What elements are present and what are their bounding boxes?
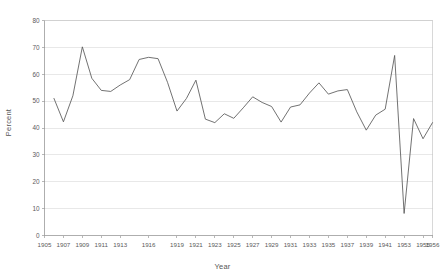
svg-text:1933: 1933 [303, 241, 317, 248]
svg-text:60: 60 [32, 71, 40, 78]
svg-text:1937: 1937 [340, 241, 354, 248]
y-axis-title-wrapper: Percent [4, 93, 13, 153]
svg-text:1919: 1919 [170, 241, 184, 248]
svg-text:30: 30 [32, 151, 40, 158]
svg-text:70: 70 [32, 44, 40, 51]
svg-text:1929: 1929 [265, 241, 279, 248]
svg-text:1935: 1935 [322, 241, 336, 248]
svg-text:20: 20 [32, 178, 40, 185]
x-axis-title-wrapper: Year [0, 262, 445, 271]
svg-text:1916: 1916 [142, 241, 156, 248]
svg-text:1905: 1905 [38, 241, 52, 248]
data-series [54, 47, 433, 214]
svg-text:1925: 1925 [227, 241, 241, 248]
svg-text:1907: 1907 [57, 241, 71, 248]
x-axis-title: Year [215, 262, 231, 271]
svg-text:1931: 1931 [284, 241, 298, 248]
y-axis-title: Percent [4, 109, 13, 136]
svg-text:1911: 1911 [95, 241, 109, 248]
svg-text:1941: 1941 [378, 241, 392, 248]
svg-text:40: 40 [32, 124, 40, 131]
svg-text:1913: 1913 [113, 241, 127, 248]
svg-text:1953: 1953 [397, 241, 411, 248]
svg-text:1909: 1909 [75, 241, 89, 248]
svg-text:1939: 1939 [359, 241, 373, 248]
svg-text:50: 50 [32, 97, 40, 104]
x-axis-ticks: 1905190719091911191319161919192119231925… [38, 236, 440, 248]
svg-text:0: 0 [36, 232, 40, 239]
svg-text:80: 80 [32, 17, 40, 24]
svg-text:10: 10 [32, 205, 40, 212]
svg-text:1956: 1956 [426, 241, 440, 248]
line-chart-plot: 01020304050607080 1905190719091911191319… [0, 0, 445, 280]
gridlines [45, 21, 433, 209]
y-axis-ticks: 01020304050607080 [32, 17, 44, 239]
svg-text:1927: 1927 [246, 241, 260, 248]
svg-text:1921: 1921 [189, 241, 203, 248]
svg-text:1923: 1923 [208, 241, 222, 248]
chart-container: 01020304050607080 1905190719091911191319… [0, 0, 445, 280]
